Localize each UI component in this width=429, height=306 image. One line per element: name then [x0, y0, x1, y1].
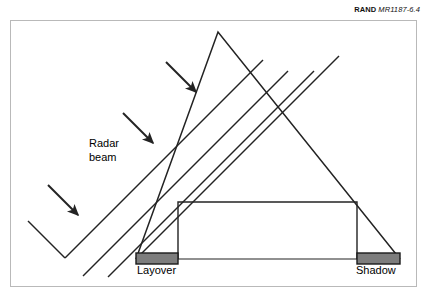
radar-beam-label: Radar beam	[89, 137, 119, 164]
beam-arrow-bottom	[48, 185, 78, 215]
layover-label: Layover	[137, 264, 176, 276]
radar-beam-label-line1: Radar	[89, 137, 119, 151]
radar-beam-line-2	[83, 71, 288, 276]
terrain-triangle	[136, 32, 400, 259]
radar-edge-returns	[28, 221, 65, 258]
shadow-bar	[357, 253, 400, 264]
radar-beam-arrows	[48, 62, 196, 215]
shadow-bar-rect	[357, 253, 400, 264]
radar-beam-lines	[65, 56, 339, 277]
beam-arrow-middle	[123, 113, 153, 143]
figure-canvas: RANDMR1187-6.4	[0, 0, 429, 306]
beam-arrow-top	[166, 62, 196, 92]
figure-caption-clipped	[8, 298, 268, 306]
layover-bar-rect	[136, 253, 178, 264]
building-rectangle	[178, 202, 357, 259]
layover-bar	[136, 253, 178, 264]
radar-beam-line-3	[108, 71, 314, 277]
shadow-label: Shadow	[356, 264, 396, 276]
beam-return-left	[28, 221, 65, 258]
radar-geometry-illustration	[0, 0, 429, 306]
radar-beam-label-line2: beam	[89, 151, 119, 165]
triangle-outline	[136, 32, 400, 259]
building-outline	[178, 202, 357, 259]
